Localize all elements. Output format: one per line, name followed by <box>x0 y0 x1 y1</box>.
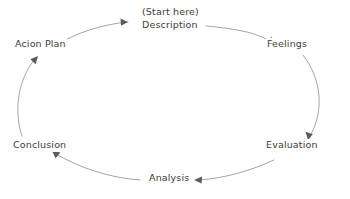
stage-label-feelings: Feelings <box>266 38 308 51</box>
arc-feelings-to-evaluation <box>303 55 319 136</box>
reflective-cycle-diagram: (Start here) Description Feelings Evalua… <box>0 0 350 199</box>
arc-analysis-to-conclusion <box>56 154 140 180</box>
stage-label-conclusion: Conclusion <box>12 139 67 152</box>
stage-label-evaluation: Evaluation <box>265 139 319 152</box>
arrowhead-to-analysis <box>194 177 202 184</box>
arc-conclusion-to-action-plan <box>18 60 34 136</box>
stage-label-description: (Start here) Description <box>141 6 200 31</box>
start-here-annotation: (Start here) <box>142 6 199 19</box>
arc-description-to-feelings <box>206 26 271 42</box>
stage-label-action-plan: Acion Plan <box>14 38 67 51</box>
arrowhead-to-conclusion <box>52 151 60 158</box>
arrowhead-to-description <box>121 19 129 26</box>
arc-evaluation-to-analysis <box>200 160 274 180</box>
stage-name-description: Description <box>142 19 199 32</box>
stage-label-analysis: Analysis <box>148 172 190 185</box>
